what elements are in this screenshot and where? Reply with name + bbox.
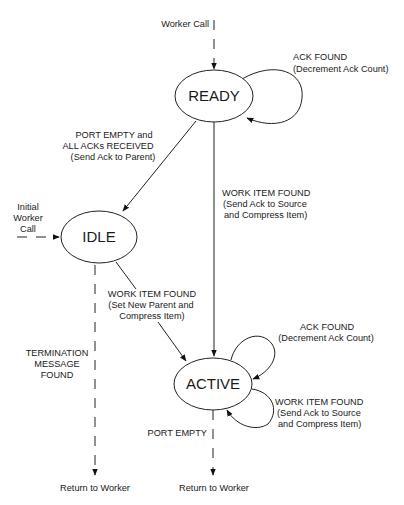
active-work-label-1: WORK ITEM FOUND [275,397,364,407]
idle-to-active-label-1: WORK ITEM FOUND [108,289,197,299]
initial-worker-call-label-1: Initial [17,202,38,212]
idle-to-active-line-upper [116,262,136,289]
ready-to-active-label-3: and Compress Item) [224,210,307,220]
termination-label-3: FOUND [41,370,74,380]
state-idle: IDLE [61,211,137,263]
ready-label: READY [188,87,240,104]
termination-label-2: MESSAGE [34,359,79,369]
ready-self-loop: ACK FOUND (Decrement Ack Count) [242,52,388,124]
idle-label: IDLE [82,228,115,245]
idle-to-active-arrow [158,322,186,361]
ready-to-active-label-2: (Send Ack to Source [223,199,307,209]
active-ack-label-2: (Decrement Ack Count) [278,333,373,343]
active-label: ACTIVE [186,375,240,392]
worker-call-label: Worker Call [161,19,209,29]
active-exit-transition: PORT EMPTY Return to Worker [148,410,249,493]
active-ack-label-1: ACK FOUND [300,322,354,332]
active-self-loop-ack: ACK FOUND (Decrement Ack Count) [231,322,374,379]
ready-ack-label-2: (Decrement Ack Count) [293,64,388,74]
initial-worker-call-label-3: Call [20,224,36,234]
ready-ack-label-1: ACK FOUND [293,52,347,62]
ready-to-active-transition: WORK ITEM FOUND (Send Ack to Source and … [214,122,311,356]
port-empty-label: PORT EMPTY [148,428,207,438]
ready-to-idle-label-1: PORT EMPTY and [75,130,152,140]
state-ready: READY [175,70,253,122]
initial-worker-call-label-2: Worker [13,213,42,223]
termination-label-1: TERMINATION [26,348,89,358]
initial-worker-call-entry: Initial Worker Call [13,202,59,237]
worker-call-entry: Worker Call [161,19,214,69]
return-to-worker-right: Return to Worker [179,483,249,493]
idle-to-active-transition: WORK ITEM FOUND (Set New Parent and Comp… [108,262,197,361]
ready-to-idle-label-3: (Send Ack to Parent) [71,152,156,162]
active-work-label-3: and Compress Item) [278,419,361,429]
idle-to-active-label-3: Compress Item) [119,311,184,321]
state-diagram: Worker Call ACK FOUND (Decrement Ack Cou… [0,0,404,505]
return-to-worker-left: Return to Worker [60,483,130,493]
ready-to-active-label-1: WORK ITEM FOUND [222,188,311,198]
ready-to-idle-label-2: ALL ACKs RECEIVED [62,141,153,151]
state-active: ACTIVE [174,358,252,410]
idle-to-active-label-2: (Set New Parent and [108,300,193,310]
ready-to-idle-transition: PORT EMPTY and ALL ACKs RECEIVED (Send A… [62,121,196,211]
active-work-label-2: (Send Ack to Source [277,408,361,418]
